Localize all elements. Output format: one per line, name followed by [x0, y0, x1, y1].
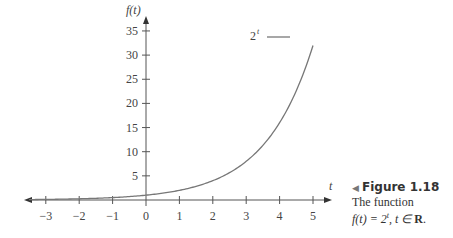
legend-exponent: t — [257, 27, 260, 36]
x-tick-label: 2 — [210, 209, 216, 223]
y-axis-arrow-icon — [143, 16, 149, 24]
x-tick-label: −2 — [73, 209, 86, 223]
y-tick-label: 10 — [126, 145, 138, 159]
y-tick-label: 5 — [132, 169, 138, 183]
x-tick-label: 1 — [176, 209, 182, 223]
curve-2-power-t — [29, 45, 313, 199]
x-tick-label: 5 — [310, 209, 316, 223]
caption-line1: The function — [352, 195, 452, 209]
figure-number: Figure 1.18 — [362, 180, 439, 194]
x-tick-label: 0 — [143, 209, 149, 223]
x-tick-label: −3 — [39, 209, 52, 223]
x-tick-label: 3 — [243, 209, 249, 223]
x-axis-title: t — [329, 179, 333, 193]
y-tick-label: 20 — [126, 96, 138, 110]
y-tick-label: 15 — [126, 121, 138, 135]
x-tick-label: 4 — [277, 209, 283, 223]
x-tick-label: −1 — [106, 209, 119, 223]
caption-arrow-icon: ◀ — [352, 183, 359, 193]
figure-caption: ◀Figure 1.18 The function f(t) = 2t, t ∈… — [352, 180, 452, 226]
x-axis-right-arrow-icon — [324, 197, 332, 203]
y-tick-label: 25 — [126, 72, 138, 86]
y-axis-title: f(t) — [126, 3, 141, 17]
curve-path — [29, 45, 313, 199]
caption-line2: f(t) = 2t, t ∈ R. — [352, 209, 452, 226]
legend: 2t — [250, 27, 290, 43]
legend-label: 2 — [250, 29, 256, 43]
y-tick-label: 35 — [126, 24, 138, 38]
y-tick-label: 30 — [126, 48, 138, 62]
